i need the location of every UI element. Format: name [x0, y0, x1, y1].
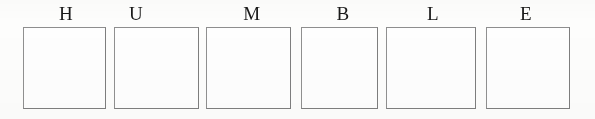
answer-box-4-content — [302, 28, 377, 108]
answer-box-6[interactable] — [486, 27, 570, 109]
letter-box-worksheet: H U M B L E — [0, 0, 595, 119]
letter-label-4: B — [332, 4, 354, 23]
answer-box-3-content — [207, 28, 290, 108]
letter-label-2: U — [125, 4, 147, 23]
answer-box-5[interactable] — [386, 27, 476, 109]
answer-box-3[interactable] — [206, 27, 291, 109]
answer-box-5-content — [387, 28, 475, 108]
letter-label-6: E — [515, 4, 537, 23]
answer-box-1-content — [24, 28, 105, 108]
answer-box-2-content — [115, 28, 198, 108]
letter-label-3: M — [239, 4, 265, 23]
answer-box-1[interactable] — [23, 27, 106, 109]
answer-box-4[interactable] — [301, 27, 378, 109]
letter-label-1: H — [55, 4, 77, 23]
letter-label-5: L — [422, 4, 444, 23]
answer-box-2[interactable] — [114, 27, 199, 109]
answer-box-6-content — [487, 28, 569, 108]
